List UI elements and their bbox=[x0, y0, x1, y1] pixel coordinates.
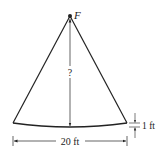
depth-label: 1 ft bbox=[142, 121, 155, 131]
focus-point bbox=[68, 14, 72, 18]
left-side-line bbox=[13, 16, 70, 123]
parabolic-reflector-diagram: F ? 20 ft 1 ft bbox=[0, 0, 163, 163]
focus-label: F bbox=[73, 9, 81, 21]
width-label: 20 ft bbox=[61, 136, 80, 147]
right-side-line bbox=[70, 16, 127, 123]
unknown-label: ? bbox=[68, 67, 73, 78]
